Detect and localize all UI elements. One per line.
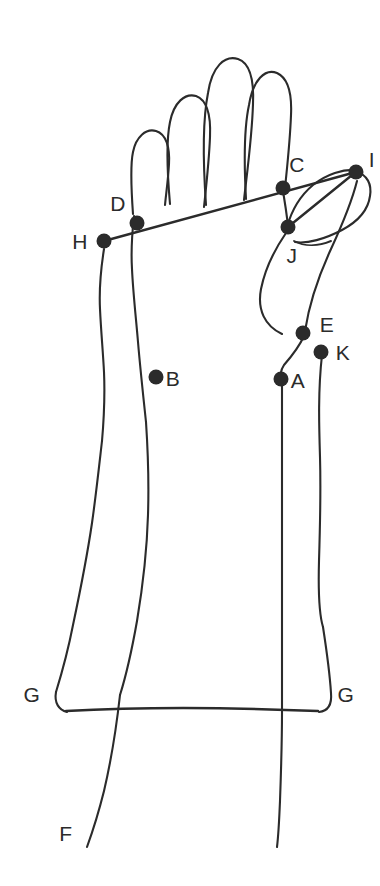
point-label-c: C	[289, 154, 305, 175]
node-dot-a	[274, 372, 289, 387]
cuff-left-corner	[56, 692, 67, 712]
thumb-right-lobe	[305, 181, 357, 331]
node-dot-d	[130, 216, 145, 231]
hand-left-outer-edge	[100, 249, 105, 441]
node-dot-h	[97, 234, 112, 249]
node-dot-e	[296, 326, 311, 341]
node-dot-b	[149, 370, 164, 385]
forearm-right-outer-line	[319, 355, 323, 627]
forearm-left-outer-line	[56, 441, 102, 692]
node-dot-j	[281, 220, 296, 235]
measurement-lines	[66, 171, 357, 711]
point-label-a: A	[291, 370, 306, 391]
measure-line-H-to-I	[104, 172, 356, 241]
figure-canvas: ABCDEFGGHIJK	[0, 0, 380, 886]
finger-pinky-outline	[131, 130, 169, 214]
hand-left-inner-edge	[132, 216, 146, 422]
point-label-b: B	[166, 368, 181, 389]
cuff-right-corner	[319, 627, 331, 712]
measure-line-cuff-G-to-G	[66, 708, 318, 711]
finger-outlines	[131, 58, 291, 214]
wrist-and-forearm-outline	[56, 336, 332, 847]
point-label-e: E	[320, 314, 335, 335]
point-label-k: K	[336, 342, 351, 363]
wrist-left-descender	[87, 695, 120, 847]
node-dot-i	[349, 165, 364, 180]
point-label-j: J	[287, 245, 298, 266]
point-label-g-left: G	[24, 684, 41, 705]
point-label-h: H	[72, 231, 88, 252]
thumb-tip-outer	[295, 172, 370, 242]
thumb-left-lobe	[260, 233, 286, 334]
hand-outline-drawing	[0, 0, 380, 886]
wrist-right-descender	[277, 713, 282, 847]
point-label-g-right: G	[338, 684, 355, 705]
forearm-left-inner-line	[120, 422, 148, 695]
point-label-f: F	[59, 823, 72, 844]
node-dot-c	[276, 181, 291, 196]
point-label-d: D	[110, 193, 126, 214]
point-label-i: I	[369, 149, 375, 170]
hand-body-outline	[100, 191, 288, 441]
node-dot-k	[314, 345, 329, 360]
